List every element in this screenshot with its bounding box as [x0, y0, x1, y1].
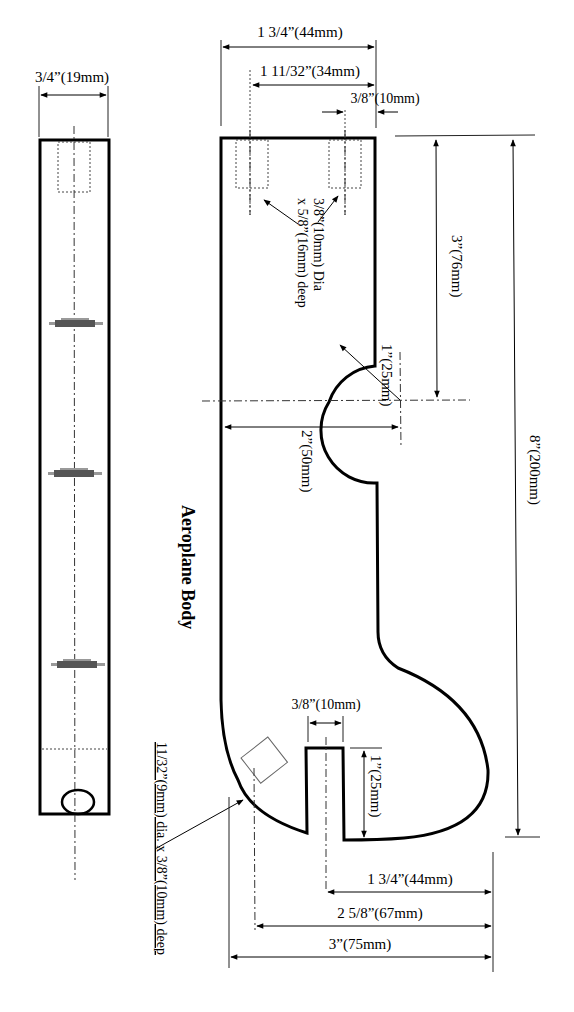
side-view: 3/4”(19mm) — [35, 69, 109, 880]
hole-note-line1: 3/8”(10mm) Dia — [310, 198, 326, 292]
hole-edge-offset-label: 3/8”(10mm) — [350, 91, 420, 107]
hole-spacing-label: 1 11/32”(34mm) — [260, 63, 360, 80]
body-outline — [221, 138, 488, 840]
side-axle-hole — [62, 790, 94, 814]
angled-hole-position-label: 2 5/8”(67mm) — [337, 905, 422, 922]
top-view: 1 3/4”(44mm) 1 11/32”(34mm) 3/8”(10mm) 3… — [153, 24, 543, 972]
hole-note: 3/8”(10mm) Dia x 5/8”(16mm) deep — [294, 198, 326, 308]
screw-icon — [51, 659, 105, 668]
side-centerline — [74, 126, 75, 880]
slot-depth-label: 1”(25mm) — [367, 755, 384, 817]
drawing-title: Aeroplane Body — [178, 505, 198, 629]
arc-center-label: 3”(76mm) — [448, 235, 465, 297]
bottom-width-label: 3”(75mm) — [329, 936, 391, 953]
overall-length-label: 8”(200mm) — [526, 435, 543, 505]
arc-horizontal-centerline — [202, 400, 470, 401]
screw-icon — [49, 318, 103, 327]
side-width-label: 3/4”(19mm) — [35, 69, 109, 86]
hole-note-leader-left — [264, 200, 298, 224]
technical-drawing: 3/4”(19mm) 1 3/4 — [0, 0, 574, 1012]
slot-center-label: 1 3/4”(44mm) — [367, 871, 452, 888]
slot-width-label: 3/8”(10mm) — [291, 697, 361, 713]
arc-depth-label: 2”(50mm) — [298, 430, 315, 492]
angled-hole-note: 11/32”(9mm) dia. x 3/8”(10mm) deep — [153, 742, 169, 955]
screw-icon — [48, 468, 102, 477]
angled-hole — [241, 737, 287, 783]
arc-radius-label: 1”(25mm) — [378, 344, 395, 406]
overall-length-dimension-line — [513, 140, 518, 835]
hidden-hole-left — [236, 140, 268, 188]
hole-note-line2: x 5/8”(16mm) deep — [294, 198, 310, 308]
arc-center-dimension-line — [436, 140, 437, 397]
overall-width-label: 1 3/4”(44mm) — [257, 24, 342, 41]
